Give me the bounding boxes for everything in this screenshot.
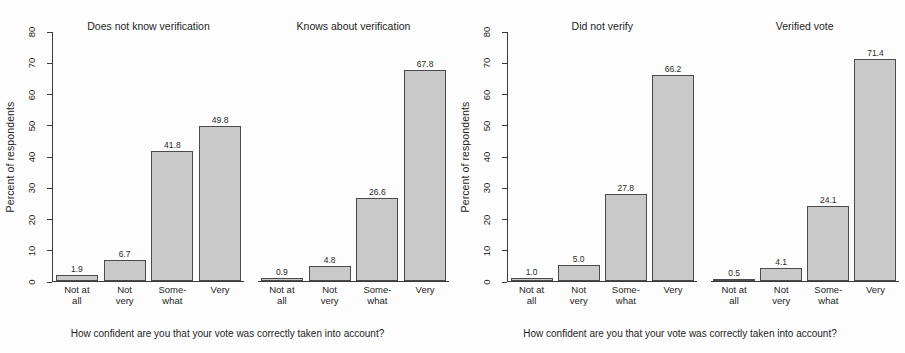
bar[interactable]: 6.7 bbox=[104, 260, 146, 281]
bar-value-label: 27.8 bbox=[618, 183, 635, 193]
y-axis-tick-label: 80 bbox=[20, 27, 44, 37]
panel-container: Does not know verification1.96.741.849.8… bbox=[53, 0, 449, 353]
y-axis-tick-label: 10 bbox=[475, 246, 499, 256]
panel-4: Verified vote0.54.124.171.4Not atallNotv… bbox=[711, 0, 900, 353]
y-axis-tick-label: 50 bbox=[20, 121, 44, 131]
y-axis-tick-value: 70 bbox=[27, 58, 37, 69]
x-axis-caption: How confident are you that your vote was… bbox=[455, 328, 905, 339]
y-axis-tick: 20 bbox=[473, 215, 507, 225]
bar[interactable]: 4.8 bbox=[309, 266, 351, 281]
bar-value-label: 49.8 bbox=[212, 115, 229, 125]
x-axis-line bbox=[53, 281, 244, 282]
y-axis: 01020304050607080 bbox=[18, 32, 52, 282]
y-axis-tick-value: 10 bbox=[482, 245, 492, 256]
y-axis-tick-value: 60 bbox=[27, 89, 37, 100]
y-axis-tick-value: 0 bbox=[27, 279, 37, 284]
bar-value-label: 4.8 bbox=[324, 255, 336, 265]
y-axis-tick-value: 40 bbox=[27, 152, 37, 163]
bar[interactable]: 5.0 bbox=[558, 265, 600, 281]
x-axis-label-line: very bbox=[306, 295, 354, 306]
x-axis-labels: Not atallNotverySome-whatVery bbox=[258, 284, 449, 306]
x-axis-category-label: Notvery bbox=[101, 284, 149, 306]
y-axis-tick: 60 bbox=[473, 90, 507, 100]
figure-right: Percent of respondents01020304050607080D… bbox=[455, 0, 905, 353]
y-axis-tick-label: 70 bbox=[475, 58, 499, 68]
bar[interactable]: 67.8 bbox=[404, 70, 446, 281]
y-axis-title-text: Percent of respondents bbox=[459, 102, 471, 213]
bar-slot: 24.1 bbox=[805, 32, 852, 281]
bar[interactable]: 66.2 bbox=[652, 75, 694, 281]
panel-title: Verified vote bbox=[711, 20, 900, 32]
bar[interactable]: 4.1 bbox=[760, 268, 802, 281]
plot-area: 0.94.826.667.8 bbox=[258, 32, 449, 282]
x-axis-line bbox=[258, 281, 449, 282]
bar[interactable]: 26.6 bbox=[356, 198, 398, 281]
y-axis-tick-value: 0 bbox=[482, 279, 492, 284]
bar[interactable]: 49.8 bbox=[199, 126, 241, 281]
bar[interactable]: 24.1 bbox=[807, 206, 849, 281]
y-axis-tick-label: 30 bbox=[20, 183, 44, 193]
x-axis-label-line: Not bbox=[555, 284, 602, 295]
y-axis-tick-label: 20 bbox=[20, 215, 44, 225]
bar-group: 1.05.027.866.2 bbox=[508, 32, 697, 281]
bar[interactable]: 41.8 bbox=[151, 151, 193, 281]
x-axis-category-label: Not atall bbox=[508, 284, 555, 306]
x-axis-category-label: Some-what bbox=[354, 284, 402, 306]
bar-slot: 5.0 bbox=[555, 32, 602, 281]
bar-value-label: 67.8 bbox=[417, 59, 434, 69]
x-axis-label-line: all bbox=[258, 295, 306, 306]
y-axis-tick: 80 bbox=[18, 27, 52, 37]
x-axis-line bbox=[508, 281, 697, 282]
x-axis-category-label: Not atall bbox=[258, 284, 306, 306]
bar-slot: 41.8 bbox=[149, 32, 197, 281]
x-axis-category-label: Very bbox=[401, 284, 449, 306]
bar-slot: 49.8 bbox=[196, 32, 244, 281]
bar-slot: 66.2 bbox=[649, 32, 696, 281]
x-axis-label-line: Very bbox=[401, 284, 449, 295]
y-axis-tick: 70 bbox=[473, 58, 507, 68]
x-axis-label-line: Some- bbox=[805, 284, 852, 295]
plot-area: 0.54.124.171.4 bbox=[711, 32, 900, 282]
y-axis-tick-label: 30 bbox=[475, 183, 499, 193]
y-axis-tick: 70 bbox=[18, 58, 52, 68]
y-axis-tick: 60 bbox=[18, 90, 52, 100]
x-axis-category-label: Some-what bbox=[149, 284, 197, 306]
bar-value-label: 71.4 bbox=[867, 48, 884, 58]
panel-title: Did not verify bbox=[508, 20, 697, 32]
x-axis-category-label: Very bbox=[852, 284, 899, 306]
x-axis-category-label: Not atall bbox=[53, 284, 101, 306]
x-axis-label-line: all bbox=[508, 295, 555, 306]
bar-value-label: 5.0 bbox=[573, 254, 585, 264]
x-axis-label-line: very bbox=[555, 295, 602, 306]
y-axis-tick-value: 10 bbox=[27, 245, 37, 256]
x-axis-label-line: Not at bbox=[53, 284, 101, 295]
x-axis-label-line: what bbox=[354, 295, 402, 306]
y-axis-tick: 40 bbox=[473, 152, 507, 162]
bar-value-label: 41.8 bbox=[164, 140, 181, 150]
panel-2: Knows about verification0.94.826.667.8No… bbox=[258, 0, 449, 353]
y-axis-tick-value: 60 bbox=[482, 89, 492, 100]
bar[interactable]: 27.8 bbox=[605, 194, 647, 281]
x-axis-labels: Not atallNotverySome-whatVery bbox=[508, 284, 697, 306]
y-axis-tick-label: 0 bbox=[20, 277, 44, 287]
panel-3: Did not verify1.05.027.866.2Not atallNot… bbox=[508, 0, 697, 353]
bar-group: 0.54.124.171.4 bbox=[711, 32, 900, 281]
y-axis-tick: 80 bbox=[473, 27, 507, 37]
y-axis-tick-label: 60 bbox=[475, 90, 499, 100]
x-axis-label-line: Very bbox=[196, 284, 244, 295]
bar-value-label: 66.2 bbox=[665, 64, 682, 74]
bar-value-label: 0.9 bbox=[276, 267, 288, 277]
x-axis-label-line: Not bbox=[306, 284, 354, 295]
bar-slot: 67.8 bbox=[401, 32, 449, 281]
x-axis-category-label: Notvery bbox=[306, 284, 354, 306]
y-axis-tick: 30 bbox=[473, 183, 507, 193]
x-axis-label-line: what bbox=[805, 295, 852, 306]
y-axis-tick: 20 bbox=[18, 215, 52, 225]
y-axis-tick-label: 80 bbox=[475, 27, 499, 37]
y-axis-tick-value: 50 bbox=[482, 120, 492, 131]
bar[interactable]: 71.4 bbox=[854, 59, 896, 281]
x-axis-label-line: Not at bbox=[508, 284, 555, 295]
bar-slot: 1.9 bbox=[53, 32, 101, 281]
y-axis: 01020304050607080 bbox=[473, 32, 507, 282]
panel-1: Does not know verification1.96.741.849.8… bbox=[53, 0, 244, 353]
